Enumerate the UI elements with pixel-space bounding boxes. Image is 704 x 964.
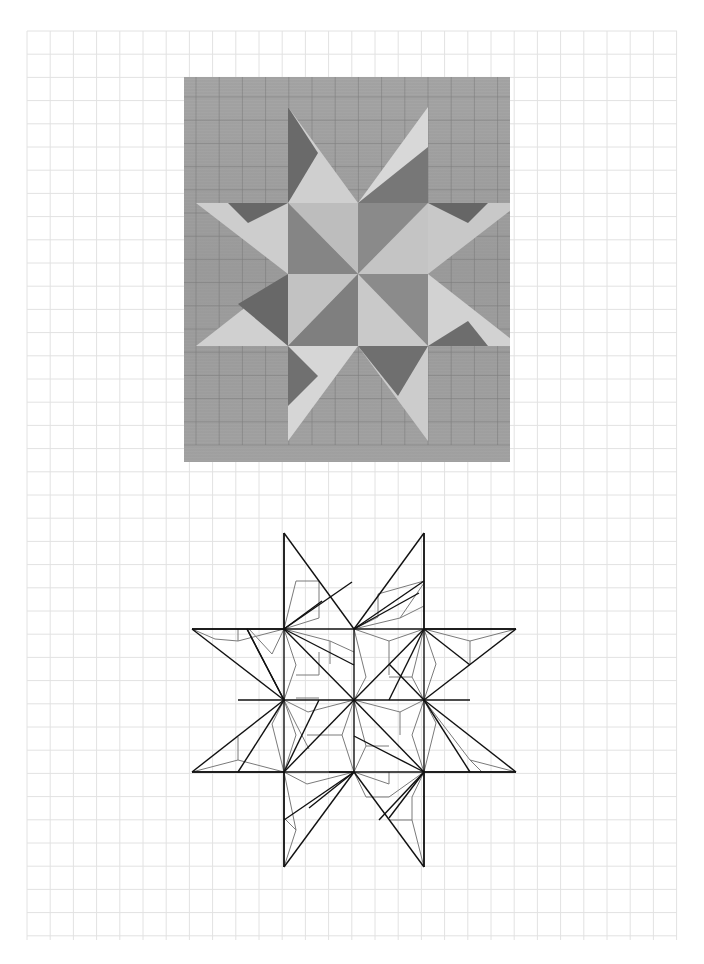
page: [0, 0, 704, 964]
primary-outline-lines: [192, 533, 516, 867]
star-line-drawing: [0, 0, 704, 964]
